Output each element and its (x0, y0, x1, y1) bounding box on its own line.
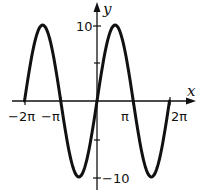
sine-chart: y x 10 −10 −2π −π π 2π (0, 0, 213, 196)
xtick-label-pi: π (121, 109, 129, 124)
ytick-label-neg10: −10 (102, 171, 129, 186)
xtick-label-2pi: 2π (171, 109, 187, 124)
y-axis-arrow-icon (94, 2, 101, 12)
ytick-label-10: 10 (76, 19, 93, 34)
x-axis-label: x (187, 82, 196, 100)
xtick-label-negpi: −π (41, 109, 60, 124)
xtick-label-neg2pi: −2π (8, 109, 35, 124)
y-axis-label: y (102, 0, 112, 18)
